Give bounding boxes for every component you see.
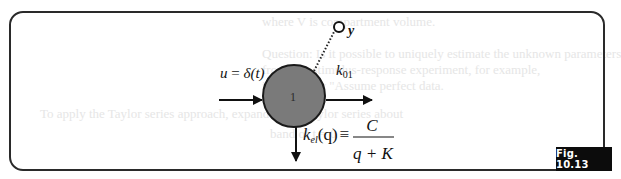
figure-label: Fig. 10.13 — [556, 147, 612, 171]
compartment-1-label: 1 — [290, 90, 296, 104]
k01-label: k01 — [336, 62, 353, 80]
observation-node-icon — [334, 22, 344, 32]
input-label: u = δ(t) — [220, 65, 265, 82]
kel-numerator: C — [366, 116, 378, 135]
kel-label: kel(q)≡ — [303, 125, 349, 145]
observation-label: y — [346, 23, 355, 38]
kel-denominator: q + K — [353, 144, 394, 163]
observation-line — [314, 32, 334, 71]
